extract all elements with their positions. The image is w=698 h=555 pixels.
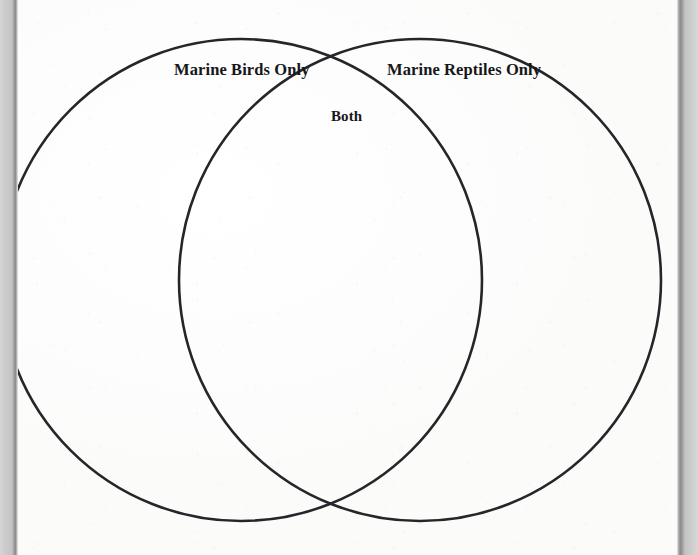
label-both: Both [331,108,362,125]
label-marine-reptiles-only: Marine Reptiles Only [387,60,541,80]
label-marine-birds-only: Marine Birds Only [174,60,310,80]
scanned-page: Marine Birds Only Marine Reptiles Only B… [0,0,698,555]
marine-reptiles-circle[interactable] [179,39,661,521]
venn-diagram [0,0,698,555]
marine-birds-circle[interactable] [0,39,482,521]
scan-gutter-right [677,0,698,555]
scan-gutter-left [0,0,18,555]
